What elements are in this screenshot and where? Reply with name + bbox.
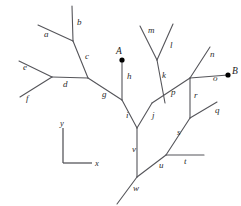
branch-lines-group [19,6,228,204]
segment-label-s: s [177,127,181,137]
tree-diagram-canvas: yx AB abcdefghijklmnopqrstuvw [0,0,241,206]
segment-label-u: u [159,160,164,170]
segment-label-g: g [102,89,107,99]
segment-label-f: f [26,93,30,103]
branch-segment-i [122,100,137,128]
branch-segment-q [190,102,217,118]
segment-label-d: d [63,79,68,89]
branch-segment-b [72,6,73,41]
branch-segment-n [190,47,210,78]
segment-label-k: k [162,70,167,80]
point-label-A: A [115,46,122,56]
segment-label-t: t [184,156,187,166]
segment-label-n: n [210,49,215,59]
segment-label-o: o [213,73,218,83]
segment-label-a: a [44,29,49,39]
point-marker-A [119,57,124,62]
segment-label-v: v [132,144,136,154]
branch-segment-f [20,77,52,97]
y-axis-label: y [59,118,64,128]
segment-label-q: q [215,105,220,115]
tree-diagram-svg: yx AB abcdefghijklmnopqrstuvw [0,0,241,206]
segment-label-c: c [85,51,89,61]
segment-label-h: h [127,71,132,81]
point-label-B: B [232,66,238,76]
x-axis-label: x [94,158,99,168]
segment-label-l: l [170,40,173,50]
segment-label-r: r [194,90,198,100]
segment-label-m: m [148,25,155,35]
segment-label-e: e [23,62,27,72]
branch-segment-o [190,75,228,78]
segment-label-b: b [77,17,82,27]
segment-label-j: j [151,110,155,120]
segment-label-p: p [170,87,176,97]
endpoint-markers-group: AB [115,46,238,78]
branch-segment-j [137,103,152,128]
segment-label-w: w [133,183,139,193]
coordinate-axes-group: yx [59,118,99,168]
point-marker-B [225,72,230,77]
branch-segment-d [52,77,88,78]
